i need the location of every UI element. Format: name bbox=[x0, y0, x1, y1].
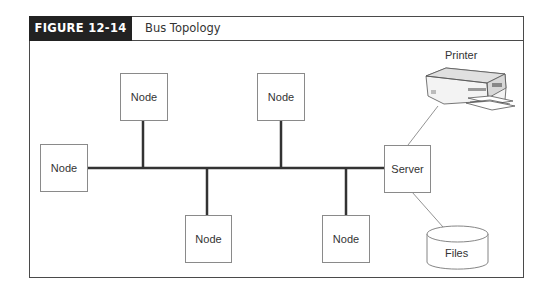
printer-label: Printer bbox=[445, 49, 477, 61]
node-bottom-1: Node bbox=[185, 215, 232, 263]
node-label: Node bbox=[51, 162, 77, 174]
server-node: Server bbox=[384, 145, 431, 193]
node-label: Node bbox=[333, 233, 359, 245]
node-top-1: Node bbox=[120, 73, 168, 121]
printer-icon bbox=[426, 68, 515, 110]
node-top-2: Node bbox=[257, 73, 305, 121]
node-label: Node bbox=[195, 233, 221, 245]
node-label: Node bbox=[268, 91, 294, 103]
node-bottom-2: Node bbox=[322, 215, 370, 263]
files-label: Files bbox=[445, 247, 468, 259]
node-label: Node bbox=[131, 91, 157, 103]
server-label: Server bbox=[391, 163, 423, 175]
node-left: Node bbox=[40, 144, 88, 192]
